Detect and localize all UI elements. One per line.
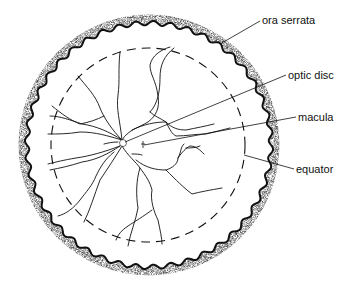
- ora-serrata-outline: [25, 21, 273, 269]
- label-optic-disc: optic disc: [288, 69, 334, 81]
- optic-disc: [120, 140, 127, 147]
- leader-ora-serrata: [220, 21, 260, 44]
- label-equator: equator: [296, 163, 334, 175]
- retina-diagram: ora serrata optic disc macula equator: [0, 0, 353, 283]
- label-ora-serrata: ora serrata: [262, 14, 316, 26]
- label-macula: macula: [298, 111, 334, 123]
